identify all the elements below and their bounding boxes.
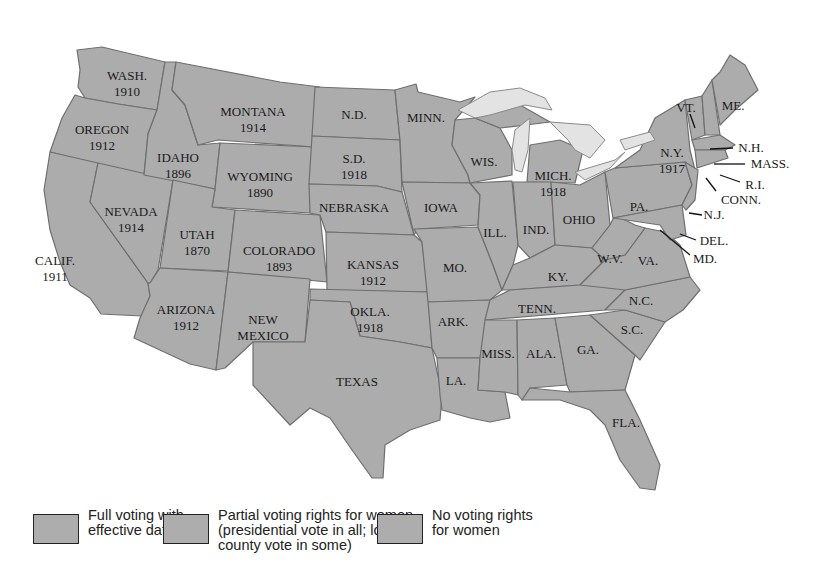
svg-text:NEVADA: NEVADA bbox=[104, 204, 158, 219]
svg-text:CONN.: CONN. bbox=[721, 192, 761, 207]
svg-text:N.Y.: N.Y. bbox=[660, 145, 684, 160]
svg-text:1912: 1912 bbox=[360, 273, 386, 288]
svg-text:COLORADO: COLORADO bbox=[243, 243, 315, 258]
svg-text:IDAHO: IDAHO bbox=[157, 150, 199, 165]
svg-text:MINN.: MINN. bbox=[407, 110, 445, 125]
state-florida bbox=[522, 388, 660, 490]
svg-text:WYOMING: WYOMING bbox=[227, 169, 293, 184]
svg-text:NEW: NEW bbox=[248, 312, 278, 327]
legend-swatch-partial-voting bbox=[163, 514, 209, 544]
svg-text:WASH.: WASH. bbox=[107, 68, 147, 83]
svg-text:S.C.: S.C. bbox=[621, 322, 643, 337]
svg-text:MONTANA: MONTANA bbox=[220, 104, 286, 119]
svg-text:1893: 1893 bbox=[266, 259, 292, 274]
svg-text:OREGON: OREGON bbox=[75, 122, 130, 137]
svg-text:1870: 1870 bbox=[184, 243, 210, 258]
svg-text:1896: 1896 bbox=[165, 166, 192, 181]
svg-text:NEBRASKA: NEBRASKA bbox=[319, 200, 390, 215]
svg-text:IOWA: IOWA bbox=[424, 200, 459, 215]
svg-text:1918: 1918 bbox=[540, 184, 566, 199]
svg-text:WIS.: WIS. bbox=[470, 154, 497, 169]
svg-text:IND.: IND. bbox=[523, 222, 549, 237]
svg-text:MICH.: MICH. bbox=[534, 168, 571, 183]
svg-text:R.I.: R.I. bbox=[745, 177, 765, 192]
svg-text:DEL.: DEL. bbox=[700, 233, 729, 248]
legend-label-no-voting: No voting rights for women bbox=[432, 508, 533, 538]
svg-text:FLA.: FLA. bbox=[612, 415, 640, 430]
svg-text:1910: 1910 bbox=[114, 84, 140, 99]
svg-text:1911: 1911 bbox=[42, 269, 68, 284]
svg-text:N.D.: N.D. bbox=[341, 107, 366, 122]
svg-text:N.C.: N.C. bbox=[629, 293, 654, 308]
svg-text:ARK.: ARK. bbox=[438, 314, 469, 329]
legend-swatch-no-voting bbox=[377, 514, 423, 544]
legend-item-no-voting: No voting rights for women bbox=[377, 508, 533, 544]
legend-item-full-voting: Full voting with effective date bbox=[33, 508, 184, 544]
svg-text:1918: 1918 bbox=[357, 320, 383, 335]
svg-text:ARIZONA: ARIZONA bbox=[157, 302, 216, 317]
svg-text:VT.: VT. bbox=[676, 100, 696, 115]
svg-text:KY.: KY. bbox=[548, 269, 568, 284]
svg-text:ALA.: ALA. bbox=[526, 346, 556, 361]
svg-text:TEXAS: TEXAS bbox=[336, 374, 378, 389]
svg-text:S.D.: S.D. bbox=[342, 151, 365, 166]
svg-text:1890: 1890 bbox=[247, 185, 273, 200]
svg-text:KANSAS: KANSAS bbox=[347, 257, 399, 272]
svg-text:OKLA.: OKLA. bbox=[350, 304, 389, 319]
legend-swatch-full-voting bbox=[33, 514, 79, 544]
svg-text:UTAH: UTAH bbox=[179, 227, 214, 242]
svg-text:1918: 1918 bbox=[341, 167, 367, 182]
svg-text:MASS.: MASS. bbox=[751, 156, 790, 171]
state-maine bbox=[712, 55, 758, 125]
svg-text:MO.: MO. bbox=[443, 260, 467, 275]
svg-text:MISS.: MISS. bbox=[481, 346, 515, 361]
svg-text:VA.: VA. bbox=[638, 253, 658, 268]
svg-text:TENN.: TENN. bbox=[518, 301, 556, 316]
svg-text:MEXICO: MEXICO bbox=[237, 328, 288, 343]
map-legend: Full voting with effective date Partial … bbox=[0, 508, 832, 568]
state-connecticut bbox=[695, 150, 728, 168]
svg-text:ILL.: ILL. bbox=[483, 225, 506, 240]
svg-text:GA.: GA. bbox=[577, 342, 599, 357]
legend-item-partial-voting: Partial voting rights for women (preside… bbox=[163, 508, 413, 553]
state-shapes bbox=[44, 47, 758, 490]
svg-text:ME.: ME. bbox=[722, 98, 745, 113]
svg-text:PA.: PA. bbox=[630, 199, 649, 214]
svg-text:1917: 1917 bbox=[659, 161, 686, 176]
svg-text:1912: 1912 bbox=[89, 138, 115, 153]
svg-text:1914: 1914 bbox=[240, 120, 267, 135]
svg-text:W.V.: W.V. bbox=[597, 251, 622, 266]
svg-text:N.H.: N.H. bbox=[738, 140, 763, 155]
svg-text:1912: 1912 bbox=[173, 318, 199, 333]
svg-text:MD.: MD. bbox=[693, 251, 717, 266]
svg-text:LA.: LA. bbox=[446, 373, 467, 388]
svg-text:CALIF.: CALIF. bbox=[35, 253, 75, 268]
svg-text:OHIO: OHIO bbox=[563, 212, 596, 227]
us-suffrage-map: WASH. 1910 OREGON 1912 CALIF. 1911 NEVAD… bbox=[0, 0, 832, 568]
svg-text:1914: 1914 bbox=[118, 220, 145, 235]
svg-text:N.J.: N.J. bbox=[704, 207, 725, 222]
